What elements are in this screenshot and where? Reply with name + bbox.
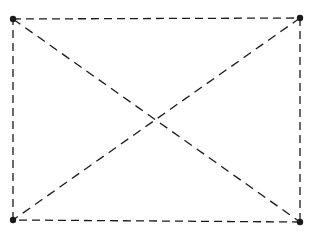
diagonal-main-line — [13, 19, 300, 222]
top-left-vertex-dot — [10, 16, 16, 22]
rectangle-diagonals-diagram — [0, 0, 315, 235]
bottom-right-vertex-dot — [297, 219, 303, 225]
top-right-vertex-dot — [297, 15, 303, 21]
diagonal-anti-line — [13, 18, 300, 220]
top-edge-line — [13, 18, 300, 19]
edges-layer — [13, 18, 300, 222]
bottom-edge-line — [13, 220, 300, 222]
bottom-left-vertex-dot — [10, 217, 16, 223]
